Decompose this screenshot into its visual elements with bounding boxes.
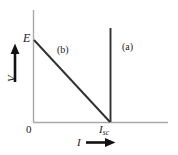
y-axis-title-v: V [6,75,17,82]
curve-b-line [34,40,110,122]
i-axis-right-arrow-icon [86,138,116,147]
y-axis-max-label-E: E [23,32,30,44]
curve-label-b: (b) [57,45,69,55]
curve-label-a: (a) [122,42,133,52]
vi-characteristic-figure: E 0 Isc (a) (b) V I [0,0,178,155]
isc-subscript: sc [103,128,109,137]
x-axis-title-i: I [77,137,81,148]
x-axis-tick-label-isc: Isc [99,124,109,137]
origin-label: 0 [26,124,32,135]
